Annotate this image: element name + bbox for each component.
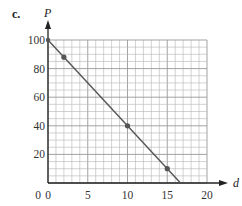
x-axis-label: d <box>233 176 240 190</box>
y-tick-label: 80 <box>34 63 46 75</box>
data-point <box>61 55 66 60</box>
origin-label: 0 <box>35 189 41 201</box>
intercept-point <box>46 38 50 42</box>
y-axis-label: P <box>43 6 52 20</box>
data-point <box>165 166 170 171</box>
x-tick-label: 15 <box>162 189 174 201</box>
x-tick-label: 5 <box>85 189 91 201</box>
y-axis-arrow-icon <box>45 20 51 29</box>
y-tick-label: 20 <box>34 148 46 160</box>
y-tick-label: 40 <box>34 120 46 132</box>
x-tick-label: 0 <box>45 189 51 201</box>
x-axis-arrow-icon <box>219 180 228 186</box>
y-tick-label: 60 <box>34 91 46 103</box>
x-tick-label: 20 <box>201 189 213 201</box>
chart: dP05101520020406080100 <box>0 0 242 206</box>
y-tick-label: 100 <box>28 34 46 46</box>
x-tick-label: 10 <box>122 189 134 201</box>
data-point <box>125 123 130 128</box>
